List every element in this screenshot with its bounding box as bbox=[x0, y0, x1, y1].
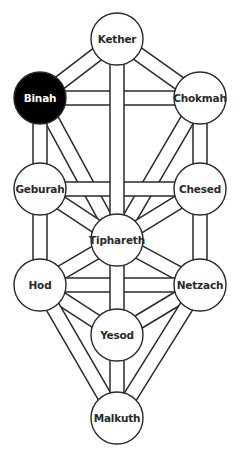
node-geburah[interactable]: Geburah bbox=[14, 163, 66, 215]
node-label: Yesod bbox=[99, 329, 134, 341]
node-label: Hod bbox=[29, 279, 52, 291]
node-label: Tiphareth bbox=[89, 234, 145, 246]
node-label: Kether bbox=[98, 33, 138, 45]
node-label: Geburah bbox=[15, 183, 64, 195]
node-kether[interactable]: Kether bbox=[91, 13, 143, 65]
node-yesod[interactable]: Yesod bbox=[91, 309, 143, 361]
node-label: Chokmah bbox=[173, 92, 226, 104]
tree-of-life-diagram: Kether Binah Chokmah Geburah Chesed Tiph… bbox=[0, 0, 242, 452]
node-label: Binah bbox=[24, 92, 57, 104]
node-label: Chesed bbox=[179, 183, 221, 195]
node-malkuth[interactable]: Malkuth bbox=[91, 392, 143, 444]
node-binah[interactable]: Binah bbox=[14, 72, 66, 124]
node-netzach[interactable]: Netzach bbox=[174, 259, 226, 311]
node-label: Malkuth bbox=[94, 412, 141, 424]
node-chokmah[interactable]: Chokmah bbox=[173, 72, 226, 124]
node-label: Netzach bbox=[177, 279, 223, 291]
node-hod[interactable]: Hod bbox=[14, 259, 66, 311]
node-chesed[interactable]: Chesed bbox=[174, 163, 226, 215]
